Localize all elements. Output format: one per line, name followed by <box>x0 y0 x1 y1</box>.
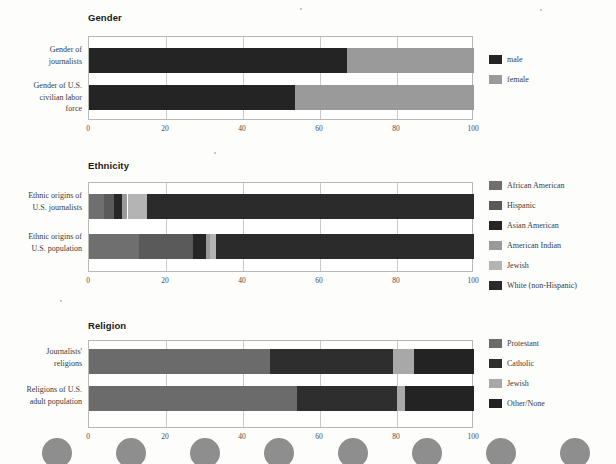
category-label-line: Gender of <box>0 44 82 56</box>
bar-ethnicity-0 <box>89 194 472 219</box>
bar-gender-1 <box>89 85 472 110</box>
legend-label: Catholic <box>507 359 534 368</box>
legend-ethnicity: African AmericanHispanicAsian AmericanAm… <box>489 180 577 300</box>
legend-item: Other/None <box>489 398 545 409</box>
bar-segment <box>297 386 397 411</box>
category-label-line: Journalists' <box>0 346 82 358</box>
bar-segment <box>405 386 474 411</box>
category-label-line: journalists <box>0 56 82 68</box>
axis-tick-label: 100 <box>467 276 478 285</box>
legend-item: Hispanic <box>489 200 577 211</box>
legend-label: Protestant <box>507 339 539 348</box>
chart-title-gender: Gender <box>88 12 122 23</box>
axis-tick-label: 80 <box>392 276 400 285</box>
decorative-circle <box>264 438 294 464</box>
decorative-circle <box>42 438 72 464</box>
category-label-line: force <box>0 103 82 115</box>
axis-tick-label: 0 <box>86 276 90 285</box>
bar-segment <box>270 349 393 374</box>
decorative-circle <box>190 438 220 464</box>
category-label-line: adult population <box>0 396 82 408</box>
bar-segment <box>104 194 114 219</box>
axis-tick-label: 100 <box>467 124 478 133</box>
x-axis-ethnicity: 020406080100 <box>88 276 473 288</box>
footer-decorative-circles <box>0 438 616 464</box>
axis-tick-label: 60 <box>315 276 323 285</box>
chart-title-ethnicity: Ethnicity <box>88 160 129 171</box>
decorative-circle <box>560 438 590 464</box>
legend-swatch-icon <box>489 201 502 210</box>
bar-segment <box>347 48 474 73</box>
bar-segment <box>128 194 147 219</box>
paper-speck <box>214 152 216 154</box>
bar-gender-0 <box>89 48 472 73</box>
legend-item: Asian American <box>489 220 577 231</box>
paper-speck <box>60 300 62 302</box>
bar-segment <box>89 194 104 219</box>
legend-gender: malefemale <box>489 54 529 94</box>
legend-swatch-icon <box>489 181 502 190</box>
legend-label: White (non-Hispanic) <box>507 281 577 290</box>
bar-segment <box>89 234 139 259</box>
category-label: Ethnic origins ofU.S. journalists <box>0 190 82 213</box>
category-label-line: Ethnic origins of <box>0 231 82 243</box>
legend-item: female <box>489 74 529 85</box>
legend-swatch-icon <box>489 75 502 84</box>
category-label: Gender of U.S.civilian laborforce <box>0 80 82 115</box>
bar-religion-1 <box>89 386 472 411</box>
axis-tick-label: 20 <box>161 276 169 285</box>
plot-area-gender <box>88 36 473 120</box>
bar-segment <box>295 85 474 110</box>
bar-segment <box>147 194 474 219</box>
legend-swatch-icon <box>489 399 502 408</box>
bar-segment <box>89 48 347 73</box>
plot-area-religion <box>88 340 473 428</box>
bar-segment <box>414 349 474 374</box>
legend-swatch-icon <box>489 241 502 250</box>
legend-swatch-icon <box>489 281 502 290</box>
category-label: Journalists'religions <box>0 346 82 369</box>
axis-tick-label: 40 <box>238 124 246 133</box>
category-label-line: religions <box>0 358 82 370</box>
bar-segment <box>193 234 206 259</box>
axis-tick-label: 0 <box>86 124 90 133</box>
legend-label: Jewish <box>507 261 529 270</box>
legend-item: African American <box>489 180 577 191</box>
chart-title-religion: Religion <box>88 320 126 331</box>
bar-segment <box>393 349 414 374</box>
legend-swatch-icon <box>489 339 502 348</box>
legend-label: male <box>507 55 523 64</box>
category-label-line: civilian labor <box>0 92 82 104</box>
category-label: Religions of U.S.adult population <box>0 384 82 407</box>
paper-speck <box>300 8 302 10</box>
bar-ethnicity-1 <box>89 234 472 259</box>
x-axis-gender: 020406080100 <box>88 124 473 136</box>
decorative-circle <box>486 438 516 464</box>
legend-swatch-icon <box>489 261 502 270</box>
infographic-page: GenderGender ofjournalistsGender of U.S.… <box>0 0 616 464</box>
decorative-circle <box>116 438 146 464</box>
decorative-circle <box>338 438 368 464</box>
legend-label: female <box>507 75 529 84</box>
bar-segment <box>114 194 122 219</box>
axis-tick-label: 40 <box>238 276 246 285</box>
legend-item: male <box>489 54 529 65</box>
category-label-line: U.S. journalists <box>0 202 82 214</box>
bar-segment <box>397 386 405 411</box>
legend-swatch-icon <box>489 379 502 388</box>
legend-label: Jewish <box>507 379 529 388</box>
legend-label: American Indian <box>507 241 561 250</box>
legend-item: White (non-Hispanic) <box>489 280 577 291</box>
bar-religion-0 <box>89 349 472 374</box>
category-label-line: U.S. population <box>0 243 82 255</box>
category-label: Gender ofjournalists <box>0 44 82 67</box>
legend-swatch-icon <box>489 221 502 230</box>
plot-area-ethnicity <box>88 182 473 272</box>
legend-label: Asian American <box>507 221 559 230</box>
legend-item: Catholic <box>489 358 545 369</box>
legend-label: African American <box>507 181 565 190</box>
category-label: Ethnic origins ofU.S. population <box>0 231 82 254</box>
legend-item: Jewish <box>489 260 577 271</box>
bar-segment <box>139 234 193 259</box>
category-label-line: Ethnic origins of <box>0 190 82 202</box>
